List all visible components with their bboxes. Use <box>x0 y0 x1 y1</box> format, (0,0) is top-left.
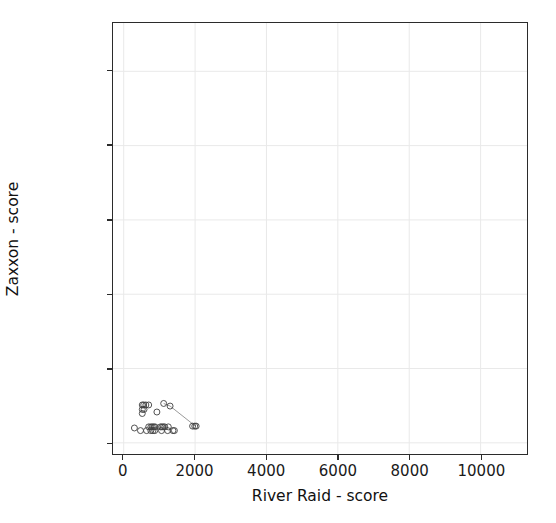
x-tick-label: 0 <box>118 462 128 480</box>
y-axis-label: Zaxxon - score <box>0 22 26 455</box>
x-tick-label: 2000 <box>175 462 213 480</box>
data-point <box>154 409 160 415</box>
y-tick-mark <box>107 70 112 71</box>
x-tick-label: 4000 <box>247 462 285 480</box>
x-tick-mark <box>266 455 267 460</box>
data-point <box>171 428 177 434</box>
x-tick-mark <box>122 455 123 460</box>
y-tick-mark <box>107 144 112 145</box>
data-point <box>137 428 143 434</box>
x-tick-label: 10000 <box>458 462 506 480</box>
y-axis-label-text: Zaxxon - score <box>4 181 22 295</box>
y-tick-mark <box>107 443 112 444</box>
y-tick-mark <box>107 294 112 295</box>
connector-line <box>164 403 196 426</box>
data-point <box>159 428 165 434</box>
x-tick-label: 8000 <box>391 462 429 480</box>
data-point <box>193 423 199 429</box>
x-tick-mark <box>409 455 410 460</box>
data-point <box>139 411 145 417</box>
scatter-plot-figure: 0200040006000800010000020004000600080001… <box>0 0 556 523</box>
data-layer <box>113 23 527 454</box>
x-axis-label: River Raid - score <box>112 487 528 505</box>
plot-area <box>112 22 528 455</box>
data-point <box>131 425 137 431</box>
y-tick-mark <box>107 219 112 220</box>
x-tick-label: 6000 <box>319 462 357 480</box>
x-tick-mark <box>337 455 338 460</box>
y-tick-mark <box>107 368 112 369</box>
x-tick-mark <box>194 455 195 460</box>
x-tick-mark <box>481 455 482 460</box>
